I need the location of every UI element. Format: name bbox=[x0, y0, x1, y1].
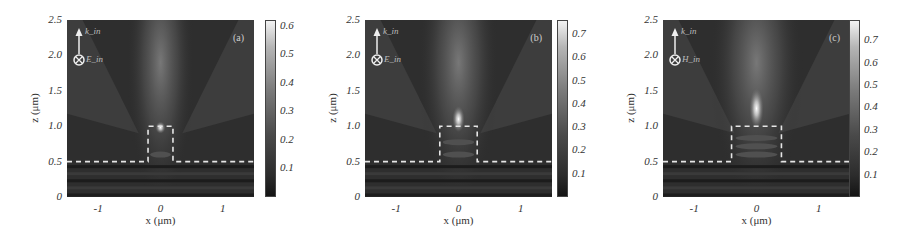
colorbar-tick-label: 0.4 bbox=[864, 101, 878, 112]
panel-c: k_inH_in(c)2.52.01.51.00.50z (μm)-101x (… bbox=[0, 0, 300, 244]
x-tick-label: 0 bbox=[747, 203, 767, 214]
x-tick-label: 1 bbox=[809, 203, 829, 214]
panel-tag: (c) bbox=[829, 32, 840, 43]
y-tick-label: 0.5 bbox=[636, 156, 658, 167]
y-tick-label: 0 bbox=[636, 191, 658, 202]
colorbar-tick-label: 0.1 bbox=[864, 169, 878, 180]
colorbar-tick-label: 0.7 bbox=[864, 34, 878, 45]
field-label: H_in bbox=[682, 54, 700, 64]
colorbar-tick-label: 0.6 bbox=[864, 57, 878, 68]
y-tick-label: 1.0 bbox=[636, 120, 658, 131]
wavevector-label: k_in bbox=[383, 26, 399, 36]
colorbar bbox=[849, 20, 860, 197]
heatmap-plot: k_inE_in(b) bbox=[365, 20, 552, 197]
colorbar-tick-label: 0.7 bbox=[572, 28, 586, 39]
y-tick-label: 2.0 bbox=[338, 49, 360, 60]
x-tick-label: 1 bbox=[511, 203, 531, 214]
colorbar-tick-label: 0.5 bbox=[864, 79, 878, 90]
colorbar-tick-label: 0.2 bbox=[864, 146, 878, 157]
y-tick-label: 1.5 bbox=[636, 85, 658, 96]
colorbar-tick-label: 0.6 bbox=[572, 51, 586, 62]
field-label: E_in bbox=[384, 54, 401, 64]
y-axis-label: z (μm) bbox=[326, 83, 338, 133]
colorbar-tick-label: 0.5 bbox=[572, 75, 586, 86]
y-tick-label: 2.0 bbox=[636, 49, 658, 60]
colorbar-tick-label: 0.2 bbox=[572, 144, 586, 155]
y-tick-label: 1.0 bbox=[338, 120, 360, 131]
colorbar-tick-label: 0.3 bbox=[572, 121, 586, 132]
y-axis-label: z (μm) bbox=[624, 83, 636, 133]
y-tick-label: 0 bbox=[338, 191, 360, 202]
x-tick-label: -1 bbox=[386, 203, 406, 214]
y-tick-label: 0.5 bbox=[338, 156, 360, 167]
x-axis-label: x (μm) bbox=[419, 214, 499, 226]
x-axis-label: x (μm) bbox=[717, 214, 797, 226]
panel-tag: (b) bbox=[530, 32, 542, 43]
x-tick-label: -1 bbox=[684, 203, 704, 214]
x-tick-label: 0 bbox=[449, 203, 469, 214]
y-tick-label: 2.5 bbox=[338, 14, 360, 25]
heatmap-plot: k_inH_in(c) bbox=[663, 20, 850, 197]
colorbar-tick-label: 0.1 bbox=[572, 168, 586, 179]
colorbar-tick-label: 0.3 bbox=[864, 124, 878, 135]
colorbar bbox=[557, 20, 568, 197]
colorbar-tick-label: 0.4 bbox=[572, 98, 586, 109]
y-tick-label: 1.5 bbox=[338, 85, 360, 96]
y-tick-label: 2.5 bbox=[636, 14, 658, 25]
wavevector-label: k_in bbox=[681, 26, 697, 36]
